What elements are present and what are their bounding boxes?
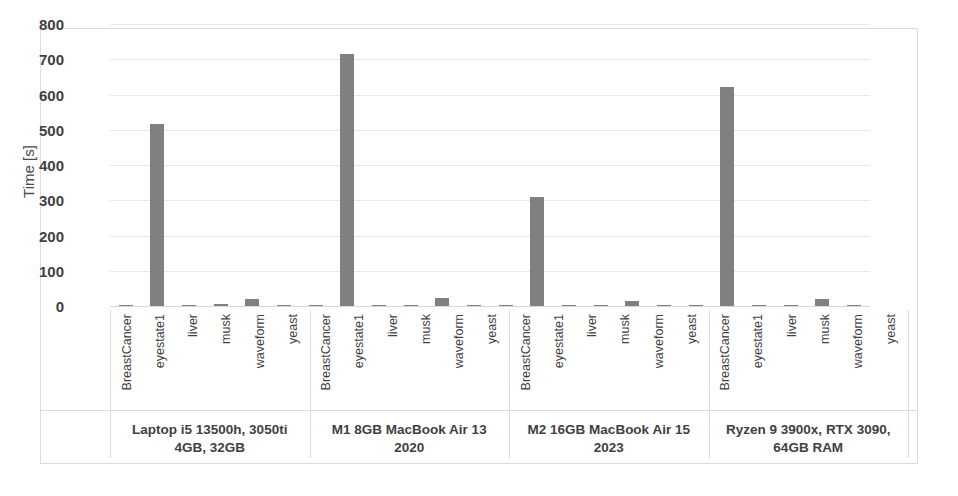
y-axis-tick-label: 700: [18, 51, 64, 68]
bar-slot: [332, 24, 364, 306]
bar-slot: [680, 24, 712, 306]
bar-slot: [712, 24, 744, 306]
gridline: [110, 306, 870, 307]
bar-slot: [268, 24, 300, 306]
group-caption: M2 16GB MacBook Air 152023: [509, 416, 709, 462]
category-label: yeast: [485, 314, 499, 344]
bar[interactable]: [309, 305, 323, 307]
bar[interactable]: [752, 305, 766, 307]
category-label-slot: BreastCancer: [509, 310, 542, 410]
category-label: musk: [818, 314, 832, 344]
bar[interactable]: [150, 124, 164, 306]
bar-group: [300, 24, 490, 306]
category-label-slot: waveform: [243, 310, 276, 410]
group-caption: Laptop i5 13500h, 3050ti4GB, 32GB: [110, 416, 310, 462]
category-label-slot: BreastCancer: [310, 310, 343, 410]
bar[interactable]: [340, 54, 354, 306]
category-label: BreastCancer: [718, 314, 732, 390]
y-axis-tick-label: 600: [18, 86, 64, 103]
category-label-slot: liver: [576, 310, 609, 410]
category-label-slot: waveform: [443, 310, 476, 410]
y-axis-tick-label: 400: [18, 157, 64, 174]
group-caption-text: Laptop i5 13500h, 3050ti4GB, 32GB: [132, 421, 287, 457]
category-label: eyestate1: [552, 314, 566, 368]
bar[interactable]: [245, 299, 259, 306]
category-label: yeast: [286, 314, 300, 344]
y-axis-tick-label: 500: [18, 121, 64, 138]
bar[interactable]: [562, 305, 576, 307]
category-label-slot: waveform: [842, 310, 875, 410]
category-label: waveform: [452, 314, 466, 368]
bar-slot: [838, 24, 870, 306]
category-label-slot: eyestate1: [143, 310, 176, 410]
plot-area: 8007006005004003002001000: [72, 24, 870, 306]
bar[interactable]: [594, 305, 608, 307]
bar[interactable]: [404, 305, 418, 307]
bar[interactable]: [467, 305, 481, 307]
bar[interactable]: [689, 305, 703, 307]
bar-slot: [553, 24, 585, 306]
bar[interactable]: [784, 305, 798, 307]
bar-slot: [585, 24, 617, 306]
bar-slot: [395, 24, 427, 306]
group-separator-edge: [908, 310, 909, 458]
category-label: yeast: [685, 314, 699, 344]
category-label-group: BreastCancereyestate1livermuskwaveformye…: [110, 310, 310, 410]
category-label-slot: musk: [409, 310, 442, 410]
group-caption-text: M2 16GB MacBook Air 152023: [528, 421, 690, 457]
category-label: eyestate1: [153, 314, 167, 368]
category-label-group: BreastCancereyestate1livermuskwaveformye…: [310, 310, 510, 410]
category-label-slot: liver: [775, 310, 808, 410]
group-caption-text: Ryzen 9 3900x, RTX 3090,64GB RAM: [726, 421, 890, 457]
bar[interactable]: [214, 304, 228, 306]
category-label-group: BreastCancereyestate1livermuskwaveformye…: [709, 310, 909, 410]
category-label-slot: eyestate1: [343, 310, 376, 410]
axis-divider: [41, 410, 917, 411]
bar-slot: [427, 24, 459, 306]
bar-slot: [522, 24, 554, 306]
bar[interactable]: [625, 301, 639, 306]
bar[interactable]: [372, 305, 386, 307]
bar-slot: [205, 24, 237, 306]
category-label: BreastCancer: [519, 314, 533, 390]
y-axis-tick-label: 800: [18, 16, 64, 33]
group-caption-text: M1 8GB MacBook Air 132020: [332, 421, 487, 457]
category-label: yeast: [884, 314, 898, 344]
bar[interactable]: [435, 298, 449, 306]
bar[interactable]: [499, 305, 513, 307]
category-label-slot: yeast: [276, 310, 309, 410]
bar[interactable]: [277, 305, 291, 307]
category-label-slot: waveform: [642, 310, 675, 410]
bar-slot: [775, 24, 807, 306]
bar[interactable]: [720, 87, 734, 306]
bar-slot: [110, 24, 142, 306]
category-label: eyestate1: [751, 314, 765, 368]
bar[interactable]: [530, 197, 544, 306]
category-label: liver: [386, 314, 400, 337]
y-axis-tick-label: 200: [18, 227, 64, 244]
category-label-slot: yeast: [675, 310, 708, 410]
category-label-slot: yeast: [875, 310, 908, 410]
bar[interactable]: [815, 299, 829, 306]
bar-slot: [458, 24, 490, 306]
bar-slot: [363, 24, 395, 306]
category-label: waveform: [253, 314, 267, 368]
bar[interactable]: [119, 305, 133, 307]
category-label-slot: BreastCancer: [110, 310, 143, 410]
category-label: musk: [419, 314, 433, 344]
group-captions: Laptop i5 13500h, 3050ti4GB, 32GBM1 8GB …: [110, 416, 908, 462]
category-label-slot: liver: [376, 310, 409, 410]
bar-slot: [173, 24, 205, 306]
bar[interactable]: [182, 305, 196, 307]
group-caption: M1 8GB MacBook Air 132020: [310, 416, 510, 462]
category-label-slot: musk: [210, 310, 243, 410]
category-label-slot: eyestate1: [542, 310, 575, 410]
bar-slot: [237, 24, 269, 306]
bar[interactable]: [657, 305, 671, 307]
category-label-slot: musk: [808, 310, 841, 410]
category-label: waveform: [851, 314, 865, 368]
bar[interactable]: [847, 305, 861, 307]
category-label: waveform: [652, 314, 666, 368]
category-label-slot: eyestate1: [742, 310, 775, 410]
y-axis-tick-label: 300: [18, 192, 64, 209]
